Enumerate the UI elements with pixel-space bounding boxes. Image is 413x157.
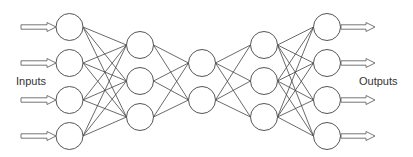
input-arrow-icon [21,23,56,32]
bottleneck-node [189,87,216,114]
edge-line [216,81,251,100]
input-arrow-icon [21,96,56,105]
output-node [314,123,341,150]
edge-line [216,45,251,63]
edge-line [278,117,314,136]
hidden-3-node [251,32,278,59]
edge-line [154,45,189,100]
input-node [56,123,83,150]
outputs-label: Outputs [359,75,398,87]
edge-line [154,63,189,81]
edge-line [83,117,127,136]
input-node [56,50,83,77]
edge-line [216,45,251,100]
output-node [314,87,341,114]
edge-line [278,27,314,45]
input-node [56,14,83,41]
output-node [314,50,341,77]
neural-network-diagram [0,0,413,157]
output-arrow-icon [341,23,375,32]
output-node [314,14,341,41]
edge-line [154,45,189,63]
hidden-1-node [127,68,154,95]
inputs-label: Inputs [16,75,46,87]
input-arrow-icon [21,132,56,141]
output-arrow-icon [341,59,375,68]
hidden-3-node [251,104,278,131]
output-arrow-icon [341,96,375,105]
output-arrow-icon [341,132,375,141]
connection-edges [83,27,314,136]
input-arrow-icon [21,59,56,68]
hidden-1-node [127,32,154,59]
edge-line [278,27,314,117]
edge-line [83,45,127,136]
hidden-3-node [251,68,278,95]
edge-line [83,45,127,63]
edge-line [83,27,127,45]
input-node [56,87,83,114]
bottleneck-node [189,50,216,77]
hidden-1-node [127,104,154,131]
